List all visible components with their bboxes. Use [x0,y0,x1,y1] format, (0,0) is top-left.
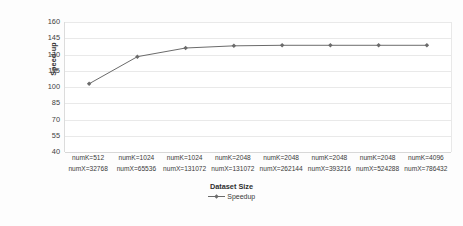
y-tick-label: 85 [34,99,60,107]
x-tick-label: numK=1024numX=131072 [161,153,209,174]
data-point-marker [87,81,92,86]
x-tick-label-numx: numX=262144 [257,164,305,175]
y-axis-tick-labels: 16014513011510085705540 [34,16,60,158]
chart-legend: Speedup [0,193,463,200]
data-point-marker [376,43,381,48]
y-tick-label: 40 [34,148,60,156]
y-tick-label: 70 [34,116,60,124]
x-tick-label: numK=1024numX=65536 [112,153,160,174]
plot-area [64,22,452,152]
chart-container: Speed-up 16014513011510085705540 numK=51… [0,0,463,226]
x-tick-label-numk: numK=2048 [257,153,305,164]
line-marker-icon [208,193,225,200]
y-tick-label: 160 [34,18,60,26]
x-tick-label: numK=2048numX=131072 [209,153,257,174]
legend-label: Speedup [227,193,255,200]
x-tick-label-numk: numK=512 [64,153,112,164]
x-axis-title: Dataset Size [0,182,463,191]
x-tick-label-numk: numK=1024 [161,153,209,164]
data-point-marker [183,46,188,51]
legend-item[interactable]: Speedup [208,193,256,200]
y-tick-label: 130 [34,51,60,59]
x-tick-label-numk: numK=1024 [112,153,160,164]
x-tick-label: numK=2048numX=262144 [257,153,305,174]
x-tick-label: numK=2048numX=393216 [305,153,353,174]
x-tick-label-numx: numX=524288 [354,164,402,175]
y-tick-label: 145 [34,34,60,42]
x-tick-label-numk: numK=2048 [209,153,257,164]
x-tick-label-numx: numX=393216 [305,164,353,175]
x-tick-label-numk: numK=2048 [305,153,353,164]
data-point-marker [232,44,237,49]
series-line-speedup [89,45,427,83]
data-point-marker [135,54,140,59]
data-point-marker [328,43,333,48]
x-tick-label: numK=4096numX=786432 [402,153,450,174]
x-tick-label-numx: numX=131072 [161,164,209,175]
y-tick-label: 100 [34,83,60,91]
x-tick-label: numK=512numX=32768 [64,153,112,174]
x-tick-label: numK=2048numX=524288 [354,153,402,174]
x-tick-label-numx: numX=786432 [402,164,450,175]
x-tick-label-numx: numX=131072 [209,164,257,175]
x-tick-label-numk: numK=4096 [402,153,450,164]
x-axis-tick-labels: numK=512numX=32768numK=1024numX=65536num… [64,153,450,179]
data-point-marker [425,43,430,48]
data-point-marker [280,43,285,48]
x-tick-label-numx: numX=32768 [64,164,112,175]
x-tick-label-numx: numX=65536 [112,164,160,175]
y-tick-label: 55 [34,132,60,140]
y-tick-label: 115 [34,67,60,75]
series-speedup [65,22,451,152]
x-tick-label-numk: numK=2048 [354,153,402,164]
